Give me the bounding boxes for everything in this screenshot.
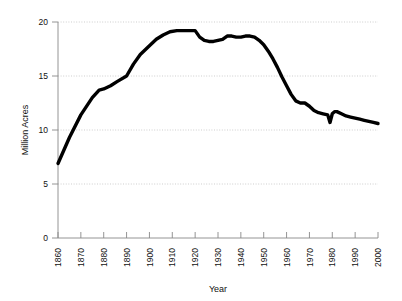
- y-axis-title: Million Acres: [20, 104, 30, 155]
- x-tick-label-1870: 1870: [76, 248, 86, 267]
- x-tick-label-1880: 1880: [99, 248, 109, 267]
- data-series-line: [58, 31, 378, 164]
- x-tick-label-1980: 1980: [327, 248, 337, 267]
- x-tick-label-1940: 1940: [236, 248, 246, 267]
- x-tick-label-1960: 1960: [282, 248, 292, 267]
- y-tick-marks: [52, 22, 58, 238]
- x-axis-title: Year: [209, 284, 227, 294]
- x-tick-marks: [58, 232, 378, 238]
- line-chart: 20151050 1860187018801890190019101920193…: [0, 0, 402, 301]
- y-tick-label-5: 5: [43, 179, 48, 189]
- y-tick-label-20: 20: [39, 17, 49, 27]
- y-tick-labels: 20151050: [39, 17, 49, 243]
- x-tick-labels: 1860187018801890190019101920193019401950…: [53, 248, 383, 267]
- x-tick-label-1900: 1900: [145, 248, 155, 267]
- x-tick-label-1950: 1950: [259, 248, 269, 267]
- chart-container: 20151050 1860187018801890190019101920193…: [0, 0, 402, 301]
- y-tick-label-0: 0: [43, 233, 48, 243]
- axes: [58, 22, 378, 238]
- gridlines: [58, 22, 378, 184]
- x-tick-label-1860: 1860: [53, 248, 63, 267]
- x-tick-label-1920: 1920: [190, 248, 200, 267]
- x-tick-label-1910: 1910: [167, 248, 177, 267]
- y-tick-label-15: 15: [39, 71, 49, 81]
- y-tick-label-10: 10: [39, 125, 49, 135]
- x-tick-label-1930: 1930: [213, 248, 223, 267]
- x-tick-label-1970: 1970: [305, 248, 315, 267]
- x-tick-label-1990: 1990: [350, 248, 360, 267]
- x-tick-label-2000: 2000: [373, 248, 383, 267]
- x-tick-label-1890: 1890: [122, 248, 132, 267]
